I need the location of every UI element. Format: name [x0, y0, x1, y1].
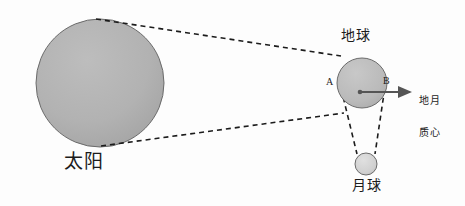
sun-label: 太阳	[64, 152, 104, 172]
earth-label: 地球	[341, 28, 370, 43]
diagram-graphics	[0, 0, 465, 206]
diagram-canvas: 太阳 地球 月球 A B 地月 质心	[0, 0, 465, 206]
earth-point-a-label: A	[326, 77, 333, 88]
earth-point-b-label: B	[383, 76, 390, 87]
barycenter-label-line-1: 地月	[419, 96, 440, 107]
earth-center-dot-icon	[358, 90, 363, 95]
sun-circle-icon	[36, 19, 164, 147]
barycenter-label: 地月 质心	[419, 75, 440, 159]
moon-label: 月球	[352, 178, 381, 193]
earth-circle-icon	[337, 58, 387, 108]
moon-circle-icon	[355, 153, 377, 175]
barycenter-label-line-2: 质心	[419, 128, 440, 139]
